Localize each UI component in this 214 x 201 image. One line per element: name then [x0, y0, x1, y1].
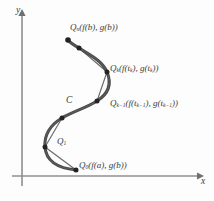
node-q-k-minus-1	[95, 99, 100, 104]
figure-canvas: y x Qn(f(b), g(b)) Qk(f(tk), g(tk)) Qk−1…	[0, 0, 214, 201]
curve-c-group	[45, 40, 109, 170]
label-curve-c: C	[66, 96, 72, 106]
label-q-k-minus-1-args3: ))	[172, 98, 178, 108]
label-q-k-minus-1-sub3: k−1	[163, 102, 172, 108]
label-q-0-args: (f(a), g(b))	[88, 160, 126, 170]
label-q-1: Q1	[57, 137, 66, 147]
label-q-k-minus-1-args: (f(t	[126, 98, 137, 108]
label-q-k-args3: ))	[152, 63, 158, 73]
label-q-k-minus-1-sub: k−1	[117, 102, 126, 108]
label-q-0: Q0(f(a), g(b))	[79, 161, 127, 171]
label-q-k-minus-1: Qk−1(f(tk−1), g(tk−1))	[110, 99, 178, 109]
x-axis-label: x	[201, 177, 205, 187]
node-q-upper	[77, 46, 82, 51]
y-axis-label: y	[16, 6, 20, 16]
label-q-k-minus-1-args2: ), g(t	[146, 98, 164, 108]
node-q-k	[105, 70, 110, 75]
curve-c-path	[45, 40, 109, 170]
label-q-k: Qk(f(tk), g(tk))	[110, 64, 158, 74]
node-q-n	[65, 37, 71, 43]
label-q-n-args: (f(b), g(b))	[79, 22, 117, 32]
label-q-1-sub: 1	[64, 140, 67, 146]
label-q-k-minus-1-sub2: k−1	[137, 102, 146, 108]
label-q-n: Qn(f(b), g(b))	[70, 23, 118, 33]
label-q-k-args2: ), g(t	[132, 63, 150, 73]
label-q-k-args: (f(t	[119, 63, 130, 73]
node-q-mid	[60, 116, 65, 121]
curve-c-path-highlight	[45, 40, 109, 170]
node-q1	[43, 145, 48, 150]
node-q0	[74, 168, 79, 173]
